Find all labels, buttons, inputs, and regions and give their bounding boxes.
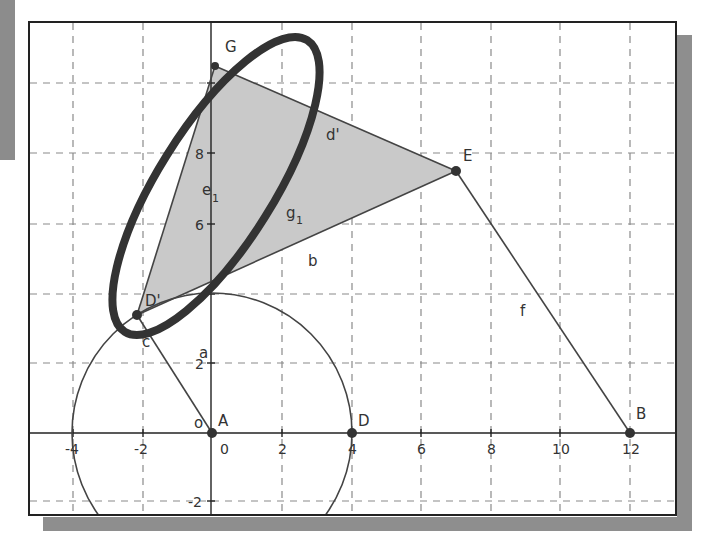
- svg-text:2: 2: [278, 441, 287, 457]
- geometry-canvas[interactable]: -4 -2 0 2 4 6 8 10 12 -2 2 6 8 A D B E G…: [30, 23, 677, 516]
- svg-text:10: 10: [552, 441, 570, 457]
- point-d: [347, 428, 357, 438]
- label-b: B: [636, 405, 646, 423]
- adjacent-window-shadow: [0, 0, 15, 160]
- svg-text:1: 1: [212, 192, 219, 205]
- point-d-prime: [132, 310, 142, 320]
- label-e1: e: [202, 181, 211, 199]
- svg-text:-2: -2: [188, 494, 202, 510]
- segment-f: [456, 171, 630, 433]
- label-f: f: [520, 302, 526, 320]
- shaded-triangle[interactable]: [137, 66, 456, 315]
- label-g: G: [225, 38, 237, 56]
- frame-shadow-right: [677, 35, 692, 531]
- label-d-prime-segment: d': [326, 126, 340, 144]
- svg-text:6: 6: [417, 441, 426, 457]
- svg-text:0: 0: [220, 441, 229, 457]
- label-d-prime: D': [145, 292, 161, 310]
- point-g: [211, 62, 219, 70]
- svg-text:12: 12: [622, 441, 640, 457]
- label-g1: g: [286, 204, 296, 222]
- label-a-segment: a: [199, 344, 208, 362]
- graphics-view[interactable]: -4 -2 0 2 4 6 8 10 12 -2 2 6 8 A D B E G…: [28, 21, 677, 516]
- svg-text:-4: -4: [65, 441, 79, 457]
- point-b: [625, 428, 635, 438]
- svg-text:-2: -2: [134, 441, 148, 457]
- svg-text:4: 4: [348, 441, 357, 457]
- frame-shadow-bottom: [43, 517, 692, 531]
- point-a: [207, 428, 217, 438]
- label-c: c: [142, 333, 150, 351]
- label-a: A: [218, 412, 229, 430]
- label-d: D: [358, 412, 370, 430]
- svg-text:8: 8: [487, 441, 496, 457]
- svg-text:1: 1: [296, 214, 303, 227]
- svg-text:8: 8: [195, 146, 204, 162]
- label-e: E: [463, 147, 472, 165]
- label-b-segment: b: [308, 252, 318, 270]
- svg-text:6: 6: [195, 217, 204, 233]
- circle-a[interactable]: [72, 293, 352, 516]
- label-o: o: [194, 414, 203, 432]
- point-e: [451, 166, 461, 176]
